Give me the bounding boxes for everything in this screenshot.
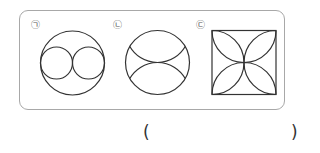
figure-label-giyeok: ㉠ (31, 21, 40, 30)
upper-arc (130, 47, 185, 63)
petal-bottom-left (212, 63, 244, 95)
figure-label-digeut: ㉢ (196, 21, 205, 30)
figure-label-nieun: ㉡ (113, 21, 122, 30)
inner-circle-right (73, 47, 105, 79)
answer-open-paren: ( (143, 124, 150, 141)
petal-top-left (212, 31, 244, 63)
answer-close-paren: ) (291, 124, 298, 141)
lower-arc (130, 63, 185, 79)
petal-top-right (244, 31, 276, 63)
petal-bottom-right (244, 63, 276, 95)
answer-blank[interactable] (155, 124, 290, 144)
figure-giyeok (41, 31, 105, 95)
inner-circle-left (41, 47, 73, 79)
figure-digeut (212, 31, 276, 95)
figure-nieun (126, 31, 190, 95)
